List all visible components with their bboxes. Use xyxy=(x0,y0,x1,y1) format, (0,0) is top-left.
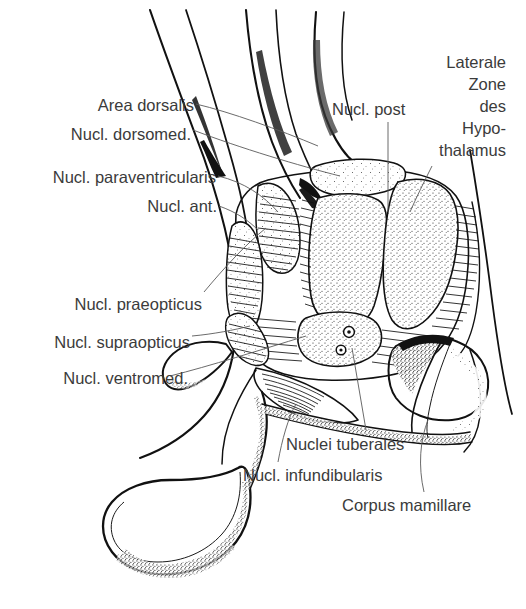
label-nucl-infundibularis: Nucl. infundibularis xyxy=(243,466,382,484)
nucleus-ventromedialis-shape xyxy=(298,312,382,366)
label-nucl-ant: Nucl. ant. xyxy=(147,197,217,215)
label-nucl-ventromed: Nucl. ventromed. xyxy=(63,369,188,387)
label-nucl-paraventricularis: Nucl. paraventricularis xyxy=(53,168,216,186)
label-nucl-dorsomed: Nucl. dorsomed. xyxy=(71,125,191,143)
label-laterale-line-1: Laterale xyxy=(446,53,506,71)
label-nucl-supraopticus: Nucl. supraopticus xyxy=(54,333,190,351)
label-area-dorsalis: Area dorsalis xyxy=(98,96,194,114)
label-laterale-line-4: Hypo- xyxy=(462,119,506,137)
label-corpus-mamillare: Corpus mamillare xyxy=(342,496,471,514)
label-laterale-line-2: Zone xyxy=(468,75,506,93)
label-nuclei-tuberales: Nuclei tuberales xyxy=(286,435,404,453)
label-nucl-post: Nucl. post xyxy=(332,100,406,118)
hypothalamus-diagram-svg: Area dorsalis Nucl. dorsomed. Nucl. para… xyxy=(0,0,526,609)
label-laterale-line-5: thalamus xyxy=(439,141,506,159)
anatomical-figure: Area dorsalis Nucl. dorsomed. Nucl. para… xyxy=(0,0,526,609)
label-laterale-line-3: des xyxy=(479,97,506,115)
label-nucl-praeopticus: Nucl. praeopticus xyxy=(75,295,202,313)
